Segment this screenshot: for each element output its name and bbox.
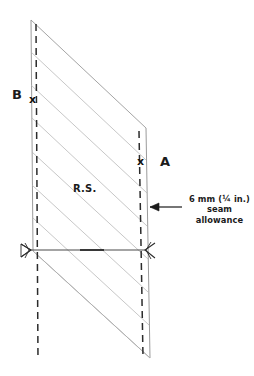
- sewing-diagram: B x A x R.S. 6 mm (¼ in.) seam allowance: [0, 0, 254, 376]
- label-right-side: R.S.: [73, 184, 97, 194]
- label-point-a: A: [160, 155, 170, 168]
- fabric-grain-lines: [31, 52, 150, 358]
- left-seam-dashed-line: [36, 24, 38, 360]
- seam-allowance-callout: 6 mm (¼ in.) seam allowance: [185, 194, 254, 225]
- cross-mark-b-icon: x: [29, 93, 36, 106]
- callout-allowance-line: allowance: [185, 215, 254, 225]
- callout-seam-line: seam: [185, 204, 254, 214]
- callout-measurement-line: 6 mm (¼ in.): [185, 194, 254, 204]
- cross-mark-a-icon: x: [137, 155, 144, 168]
- fold-alignment-line: [21, 242, 155, 259]
- diagram-canvas: [0, 0, 254, 376]
- label-point-b: B: [12, 88, 22, 101]
- callout-leader-arrow: [150, 203, 182, 211]
